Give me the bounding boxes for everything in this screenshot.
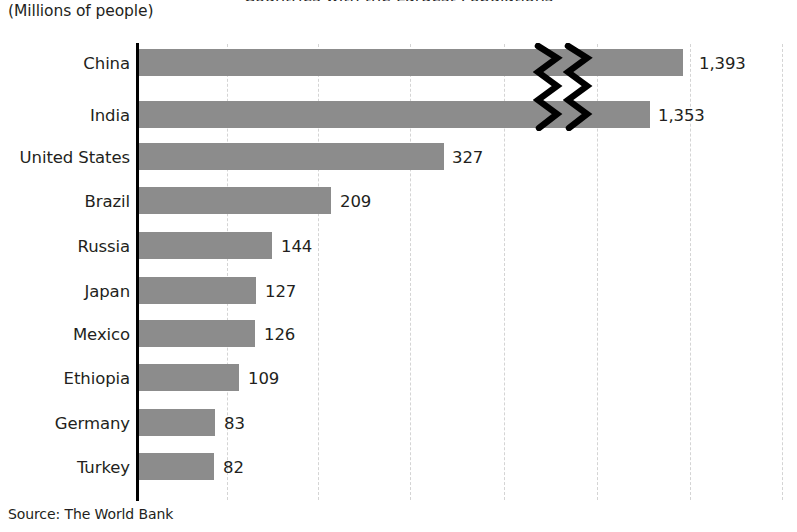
bar-row: Russia144: [0, 232, 797, 259]
category-label: Russia: [78, 236, 130, 255]
bar-chart-plot-area: China1,393India1,353United States327Braz…: [0, 0, 797, 505]
bar: [139, 49, 683, 76]
bar-row: Brazil209: [0, 187, 797, 214]
source-note: Source: The World Bank: [8, 506, 173, 522]
category-label: India: [90, 105, 130, 124]
bar-row: Ethiopia109: [0, 364, 797, 391]
category-label: Ethiopia: [64, 368, 130, 387]
bar: [139, 409, 215, 436]
bar-value-label: 144: [281, 236, 312, 255]
category-label: United States: [20, 147, 130, 166]
bar: [139, 101, 650, 128]
bar-value-label: 327: [452, 147, 483, 166]
bar: [139, 364, 239, 391]
bar: [139, 320, 255, 347]
bar-value-label: 209: [340, 191, 371, 210]
category-label: Brazil: [85, 191, 130, 210]
bar-row: Japan127: [0, 277, 797, 304]
bar-value-label: 109: [248, 368, 279, 387]
bar-row: Germany83: [0, 409, 797, 436]
bar-row: United States327: [0, 143, 797, 170]
bar-value-label: 126: [264, 324, 295, 343]
category-label: Turkey: [77, 457, 130, 476]
bar-row: Mexico126: [0, 320, 797, 347]
category-label: Mexico: [73, 324, 130, 343]
bar: [139, 187, 331, 214]
category-label: Japan: [84, 281, 130, 300]
bar-value-label: 1,353: [658, 105, 705, 124]
bar: [139, 453, 214, 480]
bar: [139, 143, 444, 170]
bar-row: Turkey82: [0, 453, 797, 480]
bar-row: India1,353: [0, 101, 797, 128]
category-label: China: [83, 53, 130, 72]
bar: [139, 232, 272, 259]
category-label: Germany: [55, 413, 130, 432]
bar: [139, 277, 256, 304]
bar-value-label: 127: [265, 281, 296, 300]
bar-value-label: 83: [224, 413, 245, 432]
bar-value-label: 1,393: [699, 53, 746, 72]
bar-value-label: 82: [223, 457, 244, 476]
bar-row: China1,393: [0, 49, 797, 76]
